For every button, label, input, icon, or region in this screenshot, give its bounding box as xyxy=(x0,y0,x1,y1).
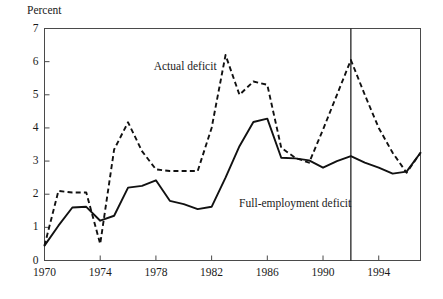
x-tick-label: 1970 xyxy=(33,266,56,278)
y-tick-label: 6 xyxy=(33,55,39,67)
x-tick-label: 1994 xyxy=(367,266,390,278)
y-tick-label: 4 xyxy=(33,121,39,133)
x-tick-label: 1982 xyxy=(200,266,223,278)
x-tick-label: 1990 xyxy=(312,266,335,278)
y-tick-label: 3 xyxy=(33,154,39,166)
y-tick-label: 0 xyxy=(33,254,39,266)
x-tick-label: 1986 xyxy=(256,266,279,278)
x-axis-ticks: 1970197419781982198619901994 xyxy=(33,256,390,278)
y-tick-label: 1 xyxy=(33,220,39,232)
series-annotations: Actual deficitFull-employment deficit xyxy=(154,60,352,211)
annotation-label: Actual deficit xyxy=(154,60,218,72)
y-tick-label: 2 xyxy=(33,187,39,199)
series-actual-deficit xyxy=(45,55,421,246)
plot-frame xyxy=(45,29,421,261)
series-full-employment-deficit xyxy=(45,119,421,246)
y-axis-title: Percent xyxy=(27,4,62,16)
y-tick-label: 7 xyxy=(33,22,39,34)
y-tick-label: 5 xyxy=(33,88,39,100)
x-tick-label: 1974 xyxy=(89,266,112,278)
y-axis-ticks: 01234567 xyxy=(33,22,50,266)
deficit-line-chart: Percent 01234567 19701974197819821986199… xyxy=(0,0,443,299)
x-tick-label: 1978 xyxy=(144,266,167,278)
annotation-label: Full-employment deficit xyxy=(239,197,352,210)
chart-figure: Percent 01234567 19701974197819821986199… xyxy=(0,0,443,299)
